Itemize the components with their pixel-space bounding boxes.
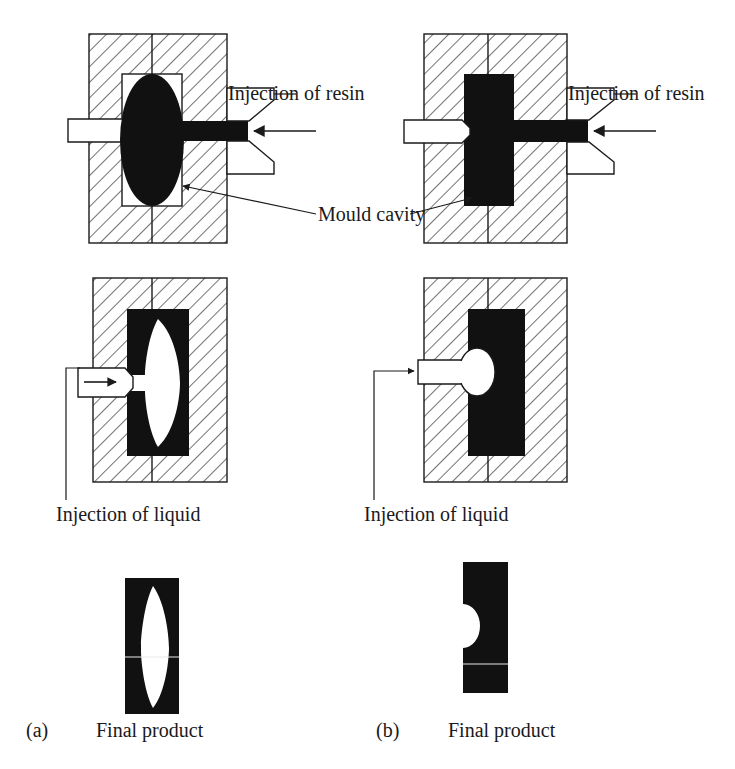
- panel-letter-b: (b): [376, 719, 399, 742]
- panel-a-liquid-injection: Injection of liquid: [56, 278, 227, 526]
- liquid-injection-channel-a2: [78, 368, 133, 397]
- label-final-product-b: Final product: [448, 719, 556, 742]
- product-block-with-notch-b: [463, 562, 508, 693]
- label-mould-cavity: Mould cavity: [318, 203, 425, 226]
- liquid-label-leader-b2: [374, 371, 414, 500]
- figure-root: Injection of resin Injection of resin Mo…: [0, 0, 735, 769]
- final-product-a: (a) Final product: [26, 578, 204, 742]
- label-injection-of-liquid-a: Injection of liquid: [56, 503, 200, 526]
- panel-letter-a: (a): [26, 719, 48, 742]
- label-injection-of-resin-a: Injection of resin: [228, 82, 365, 105]
- ejector-pin-b1: [404, 120, 470, 143]
- moulding-process-diagram: Injection of resin Injection of resin Mo…: [0, 0, 735, 769]
- panel-b-liquid-injection: Injection of liquid: [364, 278, 567, 526]
- label-final-product-a: Final product: [96, 719, 204, 742]
- label-injection-of-resin-b: Injection of resin: [568, 82, 705, 105]
- final-product-b: (b) Final product: [376, 562, 556, 742]
- product-block-with-lens-void-a: [125, 578, 179, 714]
- panel-b-resin-injection: Injection of resin: [404, 34, 705, 243]
- label-injection-of-liquid-b: Injection of liquid: [364, 503, 508, 526]
